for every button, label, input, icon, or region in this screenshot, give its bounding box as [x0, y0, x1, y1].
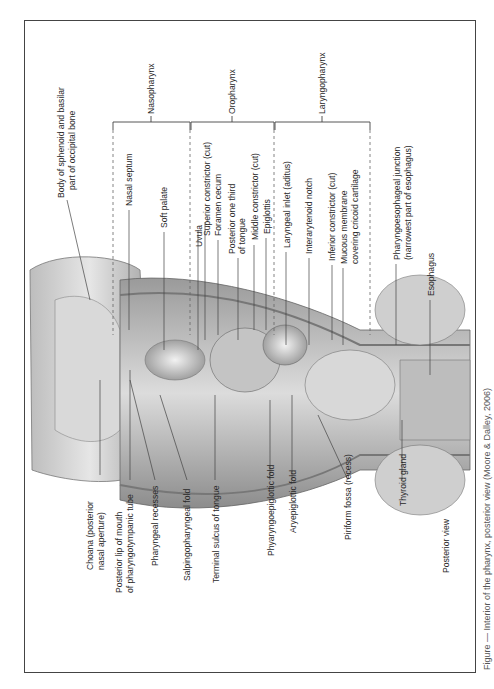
- label-piriform-fossa: Piriform fossa (recess): [343, 454, 353, 540]
- label-posterior-third-tongue: Posterior one third: [227, 184, 237, 254]
- label-pharyngotympanic-tube: of pharyngotympanic tube: [125, 494, 135, 593]
- label-thyroid-gland: Thyroid gland: [398, 454, 408, 506]
- label-pharyngoesophageal-junction: Pharyngoesophageal junction: [392, 147, 402, 260]
- view-label: Posterior view: [441, 519, 451, 573]
- region-label-oropharynx: Oropharynx: [227, 69, 237, 114]
- label-cricoid-cartilage: covering cricoid cartilage: [350, 169, 360, 264]
- pharynx-illustration: [0, 0, 494, 689]
- label-body-of-sphenoid: Body of sphenoid and basilar: [56, 87, 66, 198]
- label-salpingopharyngeal-fold: Salpingopharyngeal fold: [182, 489, 192, 581]
- label-foramen-cecum: Foramen cecum: [213, 174, 223, 236]
- figure-caption: Figure — Interior of the pharynx, poster…: [482, 388, 492, 670]
- label-occipital-bone: part of occipital bone: [67, 111, 77, 190]
- label-pharyngeal-recesses: Pharyngeal recesses: [150, 486, 160, 566]
- region-label-laryngopharynx: Laryngopharynx: [317, 52, 327, 114]
- label-of-tongue: of tongue: [237, 218, 247, 254]
- label-aryepiglottic-fold: Aryepiglottic fold: [288, 470, 298, 533]
- figure-caption-strip: Figure — Interior of the pharynx, poster…: [482, 20, 494, 670]
- label-inferior-constrictor: Inferior constrictor (cut): [327, 173, 337, 261]
- label-interarytenoid-notch: Interarytenoid notch: [304, 178, 314, 254]
- label-mucous-membrane: Mucous membrane: [339, 190, 349, 264]
- label-terminal-sulcus: Terminal sulcus of tongue: [211, 486, 221, 583]
- region-label-nasopharynx: Nasopharynx: [146, 63, 156, 114]
- label-nasal-aperture: nasal aperture): [96, 512, 106, 570]
- label-soft-palate: Soft palate: [159, 187, 169, 228]
- label-superior-constrictor: Superior constrictor (cut): [202, 142, 212, 236]
- label-nasal-septum: Nasal septum: [124, 153, 134, 206]
- label-choana: Choana (posterior: [85, 501, 95, 570]
- label-laryngeal-inlet: Laryngeal inlet (aditus): [282, 161, 292, 248]
- label-middle-constrictor: Middle constrictor (cut): [250, 153, 260, 240]
- label-posterior-lip: Posterior lip of mouth: [114, 512, 124, 593]
- label-esophagus: Esophagus: [426, 253, 436, 296]
- label-narrowest-part-esophagus: (narrowest part of esophagus): [403, 145, 413, 260]
- label-pharyngoepiglottic-fold: Phyaryngoepiglottic fold: [266, 465, 276, 556]
- label-epiglottis: Epiglottis: [262, 199, 272, 234]
